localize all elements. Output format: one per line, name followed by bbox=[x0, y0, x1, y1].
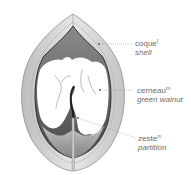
label-partition-french: zestem bbox=[138, 134, 166, 143]
partition bbox=[72, 118, 74, 170]
label-shell-french: coquef bbox=[135, 39, 158, 48]
label-partition: zestem partition bbox=[138, 134, 166, 152]
label-green-walnut: cerneaum green walnut bbox=[137, 86, 183, 104]
label-shell-english: shell bbox=[135, 48, 158, 57]
label-green-walnut-french: cerneaum bbox=[137, 86, 183, 95]
label-shell: coquef shell bbox=[135, 39, 158, 57]
label-green-walnut-english: green walnut bbox=[137, 95, 183, 104]
label-partition-english: partition bbox=[138, 143, 166, 152]
